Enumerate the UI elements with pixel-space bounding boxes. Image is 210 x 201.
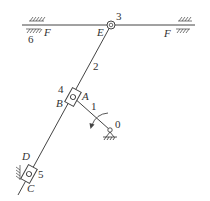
label-F-right: F xyxy=(163,27,171,39)
label-A: A xyxy=(81,90,89,102)
label-D: D xyxy=(21,150,30,162)
label-0: 0 xyxy=(115,118,121,130)
mechanism-diagram: 6 F E 3 F 2 4 B A 1 0 D 5 C xyxy=(0,0,210,201)
label-F-left: F xyxy=(43,26,51,38)
ground-hatch-slider-5-icon xyxy=(16,165,20,180)
label-1: 1 xyxy=(91,100,97,112)
label-4: 4 xyxy=(58,83,64,95)
label-C: C xyxy=(27,182,35,194)
slider-5-icon xyxy=(21,165,38,184)
pivot-3-icon xyxy=(107,21,115,29)
label-E: E xyxy=(96,26,104,38)
rotation-arrow-icon xyxy=(90,113,109,129)
label-2: 2 xyxy=(93,60,99,72)
label-5: 5 xyxy=(38,168,44,180)
label-6: 6 xyxy=(28,33,34,45)
label-B: B xyxy=(56,97,63,109)
slider-4-icon xyxy=(65,88,82,107)
label-3: 3 xyxy=(116,10,122,22)
